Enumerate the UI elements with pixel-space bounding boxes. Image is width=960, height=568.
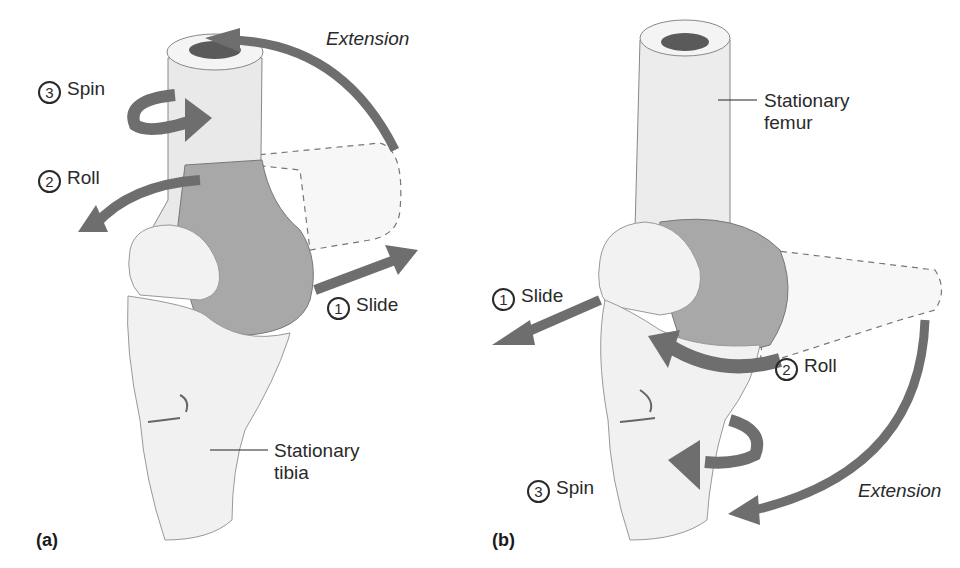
slide-arrowhead-b — [492, 320, 535, 345]
step-spin-a: 3Spin — [38, 78, 105, 104]
extension-arrowhead-b — [728, 495, 760, 525]
step-slide-a: 1Slide — [327, 294, 398, 320]
extended-tibia-outline — [760, 250, 942, 365]
stationary-tibia-label: Stationary tibia — [274, 440, 360, 484]
label-line-1: Stationary — [274, 440, 360, 462]
step-label: Slide — [521, 285, 563, 306]
label-line-2: femur — [764, 112, 850, 134]
label-line-1: Stationary — [764, 90, 850, 112]
step-roll-a: 2Roll — [38, 167, 100, 193]
step-label: Roll — [67, 167, 100, 188]
extension-label-a: Extension — [326, 28, 409, 50]
extension-label-b: Extension — [858, 480, 941, 502]
panel-tag-a: (a) — [36, 530, 58, 551]
step-number-badge: 3 — [38, 81, 61, 104]
step-label: Slide — [356, 294, 398, 315]
step-number-badge: 1 — [327, 297, 350, 320]
label-line-2: tibia — [274, 462, 360, 484]
step-slide-b: 1Slide — [492, 285, 563, 311]
step-roll-b: 2Roll — [775, 355, 837, 381]
marrow-cavity-b — [661, 33, 709, 51]
panel-a-drawing — [78, 28, 418, 540]
step-number-badge: 2 — [775, 358, 798, 381]
step-number-badge: 3 — [527, 480, 550, 503]
step-spin-b: 3Spin — [527, 477, 594, 503]
step-label: Spin — [67, 78, 105, 99]
knee-arthrokinematics-illustration — [0, 0, 960, 568]
panel-tag-b: (b) — [492, 530, 515, 551]
step-label: Spin — [556, 477, 594, 498]
step-label: Roll — [804, 355, 837, 376]
slide-arrow-a — [315, 258, 400, 290]
stationary-femur-label: Stationary femur — [764, 90, 850, 134]
step-number-badge: 2 — [38, 170, 61, 193]
panel-b-drawing — [492, 20, 942, 540]
step-number-badge: 1 — [492, 288, 515, 311]
